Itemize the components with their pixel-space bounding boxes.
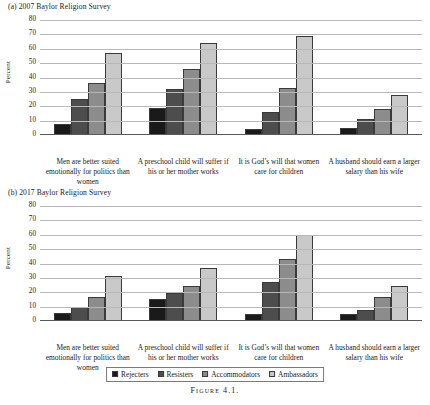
y-tick-label: 50	[14, 246, 36, 253]
y-tick-label: 80	[14, 16, 36, 23]
bar-accommodators	[279, 88, 296, 135]
bar-ambassadors	[391, 95, 408, 135]
legend-swatch-icon	[202, 371, 208, 377]
gridline	[40, 307, 422, 308]
bar-accommodators	[374, 297, 391, 321]
bar-ambassadors	[105, 53, 122, 135]
bar-resisters	[71, 307, 88, 321]
gridline	[40, 20, 422, 21]
gridline	[40, 206, 422, 207]
bar-accommodators	[88, 297, 105, 321]
y-tick-label: 10	[14, 117, 36, 124]
legend-swatch-icon	[269, 371, 275, 377]
panel-b-title: (b) 2017 Baylor Religion Survey	[8, 188, 111, 197]
y-tick-label: 70	[14, 31, 36, 38]
gridline	[40, 278, 422, 279]
plot-a: Percent 80706050403020100 Men are better…	[0, 20, 430, 145]
figure-caption: Figure 4.1.	[0, 386, 430, 395]
bar-resisters	[71, 99, 88, 135]
legend-item: Rejecters	[112, 370, 149, 379]
bar-rejecters	[149, 299, 166, 321]
legend-item: Resisters	[158, 370, 194, 379]
chart-legend: RejectersResistersAccommodatorsAmbassado…	[106, 367, 324, 382]
legend-swatch-icon	[158, 371, 164, 377]
y-tick-label: 0	[14, 131, 36, 138]
gridline	[40, 249, 422, 250]
y-tick-label: 20	[14, 103, 36, 110]
category-label: It is God’s will that women care for chi…	[231, 157, 327, 188]
y-tick-label: 30	[14, 88, 36, 95]
gridline	[40, 63, 422, 64]
bar-resisters	[262, 282, 279, 321]
x-axis-baseline	[40, 134, 422, 135]
y-tick-label: 60	[14, 231, 36, 238]
y-tick-label: 10	[14, 303, 36, 310]
gridline	[40, 235, 422, 236]
category-label: A husband should earn a larger salary th…	[327, 343, 423, 374]
y-tick-label: 70	[14, 217, 36, 224]
x-axis-baseline	[40, 320, 422, 321]
chart-panel-a: (a) 2007 Baylor Religion Survey Percent …	[0, 0, 430, 185]
plot-area-a	[40, 20, 422, 135]
y-tick-label: 40	[14, 260, 36, 267]
y-tick-label: 60	[14, 45, 36, 52]
category-label: A husband should earn a larger salary th…	[327, 157, 423, 188]
bar-accommodators	[183, 286, 200, 321]
figure-4-1: (a) 2007 Baylor Religion Survey Percent …	[0, 0, 430, 405]
y-axis-ticks-a: 80706050403020100	[10, 20, 36, 135]
gridline	[40, 78, 422, 79]
y-tick-label: 30	[14, 274, 36, 281]
legend-label: Rejecters	[121, 370, 149, 379]
legend-item: Accommodators	[202, 370, 260, 379]
y-axis-ticks-b: 80706050403020100	[10, 206, 36, 321]
bar-ambassadors	[391, 286, 408, 321]
bar-accommodators	[279, 259, 296, 321]
legend-swatch-icon	[112, 371, 118, 377]
gridline	[40, 49, 422, 50]
y-tick-label: 20	[14, 289, 36, 296]
bar-accommodators	[183, 69, 200, 135]
gridline	[40, 220, 422, 221]
category-label: Men are better suited emotionally for po…	[40, 157, 136, 188]
category-labels-a: Men are better suited emotionally for po…	[40, 157, 422, 188]
legend-item: Ambassadors	[269, 370, 318, 379]
bar-ambassadors	[105, 276, 122, 321]
legend-label: Resisters	[167, 370, 194, 379]
plot-area-b	[40, 206, 422, 321]
gridline	[40, 106, 422, 107]
gridline	[40, 121, 422, 122]
bar-accommodators	[374, 109, 391, 135]
gridline	[40, 34, 422, 35]
bar-ambassadors	[200, 268, 217, 321]
plot-b: Percent 80706050403020100 Men are better…	[0, 206, 430, 331]
legend-label: Ambassadors	[278, 370, 318, 379]
gridline	[40, 292, 422, 293]
gridline	[40, 92, 422, 93]
legend-label: Accommodators	[211, 370, 260, 379]
bar-resisters	[166, 89, 183, 135]
y-tick-label: 0	[14, 317, 36, 324]
y-tick-label: 80	[14, 202, 36, 209]
chart-panel-b: (b) 2017 Baylor Religion Survey Percent …	[0, 186, 430, 361]
category-label: A preschool child will suffer if his or …	[136, 157, 232, 188]
y-tick-label: 50	[14, 60, 36, 67]
panel-a-title: (a) 2007 Baylor Religion Survey	[8, 2, 111, 11]
gridline	[40, 264, 422, 265]
bar-resisters	[262, 112, 279, 135]
y-tick-label: 40	[14, 74, 36, 81]
